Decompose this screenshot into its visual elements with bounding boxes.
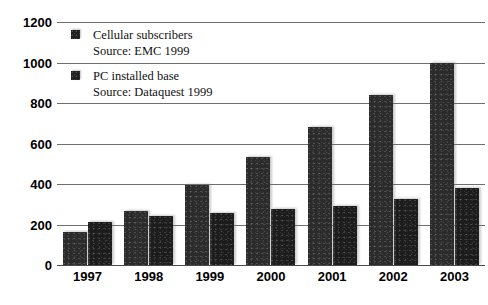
chart-legend: Cellular subscribersSource: EMC 1999PC i… <box>71 27 291 109</box>
bar-pc-1999 <box>210 213 234 265</box>
bar-cellular-1999 <box>185 185 209 265</box>
bar-cellular-2000 <box>246 157 270 265</box>
legend-text: Cellular subscribersSource: EMC 1999 <box>93 27 193 59</box>
y-axis-tick-label: 0 <box>0 259 52 272</box>
y-axis-tick-label: 800 <box>0 97 52 110</box>
bar-group <box>424 22 485 265</box>
legend-series-source: Source: EMC 1999 <box>93 43 193 59</box>
legend-series-label: Cellular subscribers <box>93 27 193 43</box>
y-axis-tick-label: 400 <box>0 178 52 191</box>
y-axis-tick-label: 200 <box>0 218 52 231</box>
legend-series-source: Source: Dataquest 1999 <box>93 84 212 100</box>
bar-pc-1997 <box>88 222 112 265</box>
x-axis-tick-label: 2001 <box>318 270 347 284</box>
y-axis: 020040060080010001200 <box>0 0 52 305</box>
legend-series-label: PC installed base <box>93 68 212 84</box>
bar-cellular-1997 <box>63 232 87 265</box>
bar-group <box>363 22 424 265</box>
legend-text: PC installed baseSource: Dataquest 1999 <box>93 68 212 100</box>
bar-cellular-2001 <box>308 127 332 265</box>
legend-entry: Cellular subscribersSource: EMC 1999 <box>71 27 291 59</box>
x-axis-tick-label: 2002 <box>379 270 408 284</box>
bar-cellular-2002 <box>369 95 393 265</box>
x-axis-tick-label: 1999 <box>195 270 224 284</box>
legend-entry: PC installed baseSource: Dataquest 1999 <box>71 68 291 100</box>
x-axis: 1997199819992000200120022003 <box>57 270 485 294</box>
x-axis-tick-label: 2003 <box>440 270 469 284</box>
x-axis-tick-label: 1997 <box>73 270 102 284</box>
bar-pc-1998 <box>149 216 173 265</box>
x-axis-tick-label: 1998 <box>134 270 163 284</box>
x-axis-tick-label: 2000 <box>257 270 286 284</box>
y-axis-tick-label: 1000 <box>0 56 52 69</box>
bar-pc-2000 <box>271 209 295 265</box>
bar-group <box>302 22 363 265</box>
legend-swatch-pc <box>71 71 80 80</box>
legend-swatch-cellular <box>71 30 80 39</box>
bar-pc-2002 <box>394 199 418 265</box>
y-axis-tick-label: 600 <box>0 137 52 150</box>
y-axis-tick-label: 1200 <box>0 16 52 29</box>
axis-baseline <box>57 265 485 266</box>
bar-pc-2001 <box>333 206 357 265</box>
bar-pc-2003 <box>455 188 479 265</box>
bar-chart: 020040060080010001200 199719981999200020… <box>0 0 488 305</box>
bar-cellular-1998 <box>124 211 148 265</box>
bar-cellular-2003 <box>430 63 454 266</box>
